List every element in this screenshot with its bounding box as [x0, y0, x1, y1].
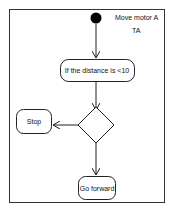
stop-label: Stop — [27, 118, 42, 126]
note-line-1: Move motor A — [115, 14, 159, 21]
initial-node — [91, 13, 102, 24]
activity-diagram: Move motor A TA If the distance is <10 S… — [0, 0, 178, 214]
forward-label: Go forward — [80, 185, 115, 192]
note-line-2: TA — [132, 27, 141, 34]
diagram-frame — [10, 10, 165, 203]
action-condition-label: If the distance is <10 — [65, 67, 130, 74]
